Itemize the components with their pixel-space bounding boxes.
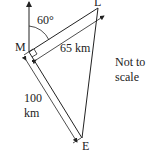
point-E-label: E (82, 140, 89, 153)
angle-arc (29, 26, 49, 40)
line-LE (82, 8, 98, 138)
angle-label: 60° (37, 14, 54, 27)
distance-ME-unit: km (24, 107, 39, 120)
distance-ME-value: 100 (24, 92, 42, 105)
point-M-label: M (15, 41, 26, 54)
distance-ML-label: 65 km (60, 42, 90, 55)
point-L-label: L (94, 0, 101, 9)
note-line1: Not to (115, 56, 145, 69)
note-line2: scale (115, 71, 139, 84)
